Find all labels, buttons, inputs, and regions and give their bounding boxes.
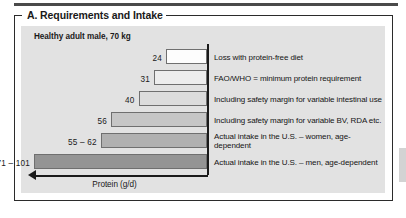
plot-area: 24Loss with protein-free diet31FAO/WHO =… [21, 44, 385, 193]
bar-row: 40Including safety margin for variable i… [21, 89, 385, 110]
vertical-axis-line [207, 44, 209, 175]
chart-plate: Healthy adult male, 70 kg 24Loss with pr… [21, 26, 385, 193]
bar-category-label: Including safety margin for variable int… [214, 95, 382, 105]
bar-row: 55 – 62Actual intake in the U.S. – women… [21, 131, 385, 152]
bar-row: 31FAO/WHO = minimum protein requirement [21, 68, 385, 89]
top-divider-rule [14, 3, 398, 6]
chart-subtitle: Healthy adult male, 70 kg [34, 32, 131, 41]
bar-category-label: Actual intake in the U.S. – men, age-dep… [214, 158, 382, 168]
page-edge-tab [399, 148, 406, 182]
x-axis-label: Protein (g/d) [21, 180, 208, 189]
bar-value-label: 71 – 101 [0, 158, 30, 167]
bar-category-label: Actual intake in the U.S. – women, age-d… [214, 132, 382, 151]
bar-value-label: 31 [140, 74, 150, 83]
bar-rows: 24Loss with protein-free diet31FAO/WHO =… [21, 44, 385, 175]
bar-category-label: Including safety margin for variable BV,… [214, 116, 382, 126]
bar-value-label: 55 – 62 [68, 137, 97, 146]
bar [111, 112, 207, 127]
page-title: A. Requirements and Intake [24, 9, 166, 22]
bar [34, 154, 207, 169]
bar-value-label: 24 [152, 53, 162, 62]
bar [166, 49, 207, 64]
bar-category-label: Loss with protein-free diet [214, 53, 382, 63]
bar [101, 133, 207, 148]
bar [139, 91, 208, 106]
bar-row: 56Including safety margin for variable B… [21, 110, 385, 131]
bar-value-label: 56 [98, 116, 108, 125]
axis-arrow-left-icon [28, 170, 36, 180]
bar [154, 70, 207, 85]
bar-value-label: 40 [125, 95, 135, 104]
horizontal-axis-line [34, 175, 208, 177]
bar-category-label: FAO/WHO = minimum protein requirement [214, 74, 382, 84]
bar-row: 24Loss with protein-free diet [21, 47, 385, 68]
bar-row: 71 – 101Actual intake in the U.S. – men,… [21, 152, 385, 173]
